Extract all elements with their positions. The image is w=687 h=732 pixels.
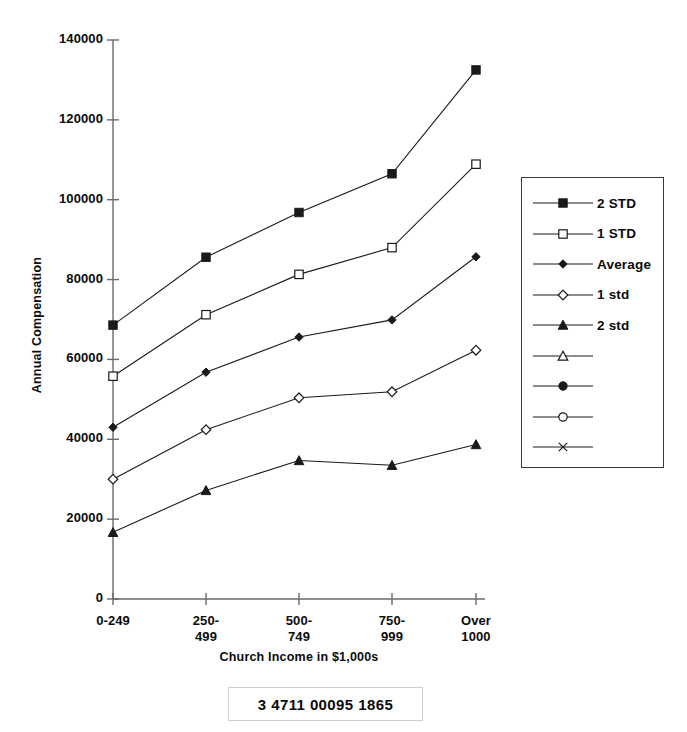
legend-marker-open-square-icon bbox=[529, 219, 597, 249]
y-tick-label: 0 bbox=[17, 590, 103, 605]
legend-marker-filled-circle-icon bbox=[529, 371, 597, 401]
legend-item-7[interactable] bbox=[522, 371, 665, 401]
y-axis-title: Annual Compensation bbox=[30, 225, 44, 425]
x-tick-label: 250-499 bbox=[163, 613, 249, 645]
legend-item-2-std[interactable]: 2 std bbox=[522, 310, 665, 340]
x-tick-label: 500-749 bbox=[256, 613, 342, 645]
x-tick-label-line: 500- bbox=[256, 613, 342, 629]
x-tick-label-line: Over bbox=[433, 613, 519, 629]
legend-item-1-std[interactable]: 1 STD bbox=[522, 219, 665, 249]
series-2-std bbox=[109, 66, 480, 330]
y-tick-label: 60000 bbox=[17, 350, 103, 365]
legend-marker-filled-square-icon bbox=[529, 188, 597, 218]
x-axis-title: Church Income in $1,000s bbox=[113, 650, 485, 664]
legend-item-average[interactable]: Average bbox=[522, 249, 665, 279]
chart-legend: 2 STD1 STDAverage1 std2 std bbox=[521, 177, 664, 468]
x-tick-label-line: 750- bbox=[349, 613, 435, 629]
y-tick-label: 120000 bbox=[17, 111, 103, 126]
chart-series bbox=[108, 66, 481, 537]
chart-axes bbox=[107, 40, 485, 605]
legend-marker-cross-x-icon bbox=[529, 432, 597, 462]
y-tick-label: 100000 bbox=[17, 191, 103, 206]
x-tick-label-line: 250- bbox=[163, 613, 249, 629]
x-tick-label: 0-249 bbox=[70, 613, 156, 629]
x-tick-label-line: 749 bbox=[256, 629, 342, 645]
y-tick-label: 140000 bbox=[17, 31, 103, 46]
legend-item-9[interactable] bbox=[522, 432, 665, 462]
series-2-std bbox=[108, 440, 481, 537]
legend-item-6[interactable] bbox=[522, 341, 665, 371]
x-tick-label-line: 0-249 bbox=[70, 613, 156, 629]
legend-marker-filled-diamond-icon bbox=[529, 249, 597, 279]
legend-item-2-std[interactable]: 2 STD bbox=[522, 188, 665, 218]
legend-marker-filled-triangle-icon bbox=[529, 310, 597, 340]
x-tick-label: Over1000 bbox=[433, 613, 519, 645]
y-tick-label: 20000 bbox=[17, 510, 103, 525]
legend-marker-open-diamond-icon bbox=[529, 280, 597, 310]
y-tick-label: 80000 bbox=[17, 271, 103, 286]
legend-item-label: 1 std bbox=[597, 287, 630, 302]
legend-marker-open-triangle-icon bbox=[529, 341, 597, 371]
series-1-std bbox=[109, 160, 480, 380]
legend-item-label: Average bbox=[597, 257, 651, 272]
x-tick-label-line: 999 bbox=[349, 629, 435, 645]
legend-item-label: 2 std bbox=[597, 318, 630, 333]
y-tick-label: 40000 bbox=[17, 430, 103, 445]
legend-item-label: 2 STD bbox=[597, 196, 636, 211]
isbn-barcode-box: 3 4711 00095 1865 bbox=[228, 687, 423, 721]
x-tick-label-line: 499 bbox=[163, 629, 249, 645]
x-tick-label-line: 1000 bbox=[433, 629, 519, 645]
legend-item-1-std[interactable]: 1 std bbox=[522, 280, 665, 310]
isbn-number: 3 4711 00095 1865 bbox=[258, 696, 393, 713]
legend-item-label: 1 STD bbox=[597, 226, 636, 241]
legend-item-8[interactable] bbox=[522, 402, 665, 432]
legend-marker-open-circle-icon bbox=[529, 402, 597, 432]
x-tick-label: 750-999 bbox=[349, 613, 435, 645]
